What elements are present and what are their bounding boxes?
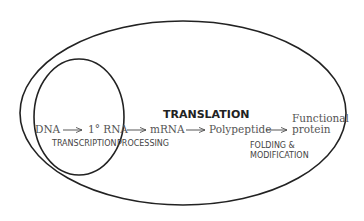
label-processing: PROCESSING: [117, 139, 169, 148]
label-folding: FOLDING &: [250, 141, 295, 150]
label-transcription: TRANSCRIPTION: [51, 139, 117, 148]
gene-expression-diagram: TRANSLATION DNA 1° RNA mRNA Polypeptide …: [0, 0, 364, 221]
transcription-ellipse: [34, 59, 124, 175]
label-modification: MODIFICATION: [250, 151, 309, 160]
node-protein-line2: protein: [292, 123, 331, 135]
node-polypeptide: Polypeptide: [209, 123, 271, 135]
translation-label: TRANSLATION: [163, 108, 249, 121]
node-dna: DNA: [35, 123, 61, 135]
node-mrna: mRNA: [150, 123, 185, 135]
node-primary-rna: 1° RNA: [88, 123, 128, 135]
